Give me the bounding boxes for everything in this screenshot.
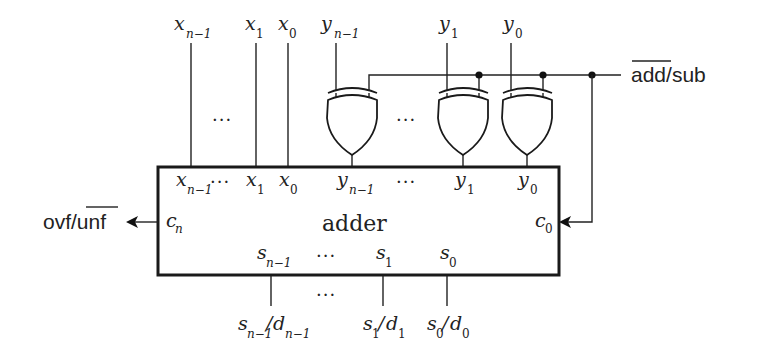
svg-text:y: y	[517, 168, 529, 190]
svg-text:0: 0	[449, 256, 457, 270]
input-label-y-0: y 0	[502, 12, 523, 41]
svg-text:y: y	[336, 168, 348, 190]
svg-text:1: 1	[385, 256, 393, 270]
adder-subtractor-diagram: x n−1 x 1 x 0 y n−1 y 1 y 0 ··· ··· add/…	[0, 0, 760, 355]
svg-text:y: y	[502, 12, 514, 34]
svg-text:/: /	[440, 312, 450, 334]
svg-text:ovf/unf: ovf/unf	[43, 210, 106, 233]
input-label-y-1: y 1	[438, 12, 459, 41]
ellipsis-y-inputs: ···	[396, 109, 416, 130]
junction-dot-1	[475, 71, 482, 78]
ellipsis-outputs: ···	[316, 284, 336, 305]
svg-text:d: d	[386, 312, 398, 334]
svg-text:x: x	[279, 168, 290, 190]
output-label-1: s 1 / d 1	[363, 312, 406, 341]
xor-gate-n-1	[327, 88, 377, 167]
svg-text:0: 0	[290, 183, 298, 197]
svg-text:n−1: n−1	[187, 183, 212, 197]
svg-text:x: x	[245, 12, 256, 34]
port-ellipsis-y: ···	[396, 171, 416, 192]
svg-text:1: 1	[256, 27, 264, 41]
svg-text:add/sub: add/sub	[631, 63, 706, 86]
svg-text:x: x	[246, 168, 257, 190]
carry-in-wire	[568, 75, 592, 222]
svg-text:/: /	[376, 312, 386, 334]
svg-text:x: x	[176, 168, 187, 190]
svg-text:1: 1	[451, 27, 459, 41]
svg-text:d: d	[273, 312, 285, 334]
xor-gate-1	[438, 88, 488, 167]
svg-text:n: n	[175, 222, 183, 236]
svg-text:1: 1	[398, 327, 406, 341]
control-bus	[369, 75, 621, 98]
output-label-0: s 0 / d 0	[427, 312, 470, 341]
svg-text:n−1: n−1	[285, 327, 310, 341]
svg-text:n−1: n−1	[334, 27, 359, 41]
svg-text:d: d	[450, 312, 462, 334]
port-ellipsis-x: ···	[210, 171, 230, 192]
svg-text:n−1: n−1	[266, 256, 291, 270]
ellipsis-x-inputs: ···	[212, 109, 232, 130]
svg-text:y: y	[454, 168, 466, 190]
xor-gate-0	[502, 88, 552, 167]
input-label-x-n-1: x n−1	[174, 12, 211, 41]
junction-dot-0	[539, 71, 546, 78]
input-label-x-1: x 1	[245, 12, 264, 41]
svg-text:0: 0	[515, 27, 523, 41]
control-signal-label: add/sub	[631, 61, 706, 86]
svg-text:1: 1	[467, 183, 475, 197]
svg-text:x: x	[174, 12, 185, 34]
input-label-x-0: x 0	[278, 12, 297, 41]
svg-text:n−1: n−1	[349, 183, 374, 197]
input-label-y-n-1: y n−1	[320, 12, 359, 41]
svg-text:y: y	[320, 12, 332, 34]
svg-text:0: 0	[545, 222, 553, 236]
svg-text:1: 1	[257, 183, 265, 197]
svg-text:n−1: n−1	[186, 27, 211, 41]
overflow-label: ovf/unf	[43, 207, 118, 233]
adder-title: adder	[322, 211, 387, 236]
svg-text:y: y	[438, 12, 450, 34]
svg-text:0: 0	[289, 27, 297, 41]
output-label-n-1: s n−1 / d n−1	[238, 312, 310, 341]
port-ellipsis-s: ···	[316, 245, 336, 266]
svg-text:0: 0	[462, 327, 470, 341]
svg-text:x: x	[278, 12, 289, 34]
svg-text:0: 0	[530, 183, 538, 197]
